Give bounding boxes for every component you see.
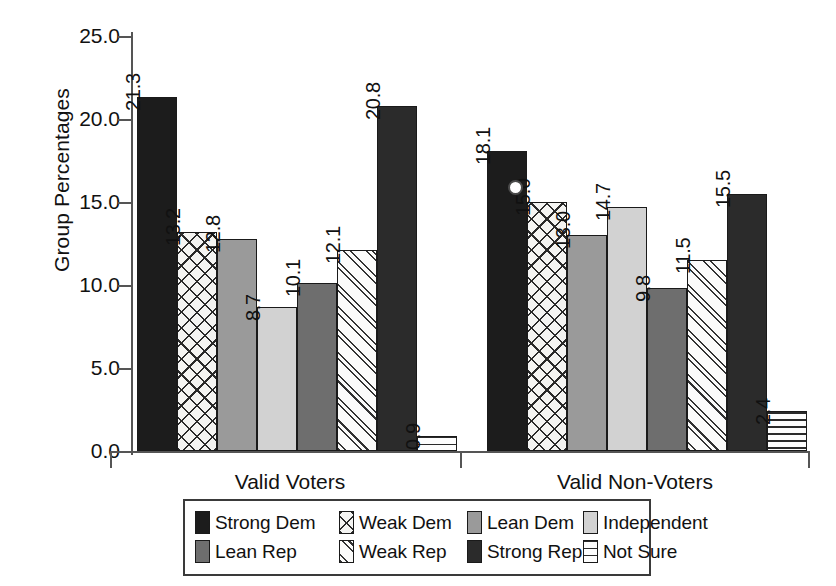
x-axis-left-cap xyxy=(110,451,112,468)
bar-valid-voters-lean-rep[interactable] xyxy=(297,283,337,451)
x-axis-group-separator xyxy=(460,451,462,468)
legend-item-weak-rep[interactable]: Weak Rep xyxy=(339,540,467,563)
y-tick-label-25: 25.0 xyxy=(48,24,120,48)
bar-valid-non-voters-lean-dem[interactable] xyxy=(567,235,607,451)
bar-value-label: 13.0 xyxy=(552,211,575,249)
bar-value-label: 12.1 xyxy=(322,226,345,264)
legend-swatch-weak-rep-icon xyxy=(339,540,354,563)
plot-area: 21.3 13.2 12.8 8.7 10.1 12.1 20.8 0.9 18… xyxy=(131,36,790,451)
legend-swatch-independent-icon xyxy=(583,511,598,534)
bar-value-label: 14.7 xyxy=(592,183,615,221)
bar-valid-voters-independent[interactable] xyxy=(257,307,297,451)
x-axis-right-cap xyxy=(808,451,810,468)
legend-swatch-lean-rep-icon xyxy=(195,540,210,563)
bar-value-label: 12.8 xyxy=(202,215,225,253)
bar-value-label: 15.5 xyxy=(712,170,735,208)
bar-valid-voters-strong-dem[interactable] xyxy=(137,97,177,451)
y-tick-label-10: 10.0 xyxy=(48,273,120,297)
legend-swatch-strong-dem-icon xyxy=(195,511,210,534)
legend-label-weak-dem: Weak Dem xyxy=(359,512,452,534)
y-tick-mark-10 xyxy=(118,285,132,287)
bar-valid-voters-strong-rep[interactable] xyxy=(377,106,417,451)
legend-swatch-lean-dem-icon xyxy=(467,511,482,534)
y-tick-mark-15 xyxy=(118,202,132,204)
x-category-label-valid-non-voters: Valid Non-Voters xyxy=(462,470,808,494)
legend-item-lean-dem[interactable]: Lean Dem xyxy=(467,511,583,534)
scan-artifact-dot xyxy=(508,180,523,195)
legend-label-lean-rep: Lean Rep xyxy=(215,541,297,563)
legend-label-independent: Independent xyxy=(603,512,708,534)
y-tick-mark-20 xyxy=(118,119,132,121)
bar-valid-voters-weak-rep[interactable] xyxy=(337,250,377,451)
legend-label-strong-rep: Strong Rep xyxy=(487,541,582,563)
legend-label-not-sure: Not Sure xyxy=(603,541,677,563)
bar-valid-voters-lean-dem[interactable] xyxy=(217,239,257,452)
legend-item-strong-dem[interactable]: Strong Dem xyxy=(195,511,339,534)
legend-label-weak-rep: Weak Rep xyxy=(359,541,447,563)
y-axis-tick-labels: 25.0 20.0 15.0 10.0 5.0 0.0 xyxy=(48,0,120,586)
bar-value-label: 13.2 xyxy=(162,208,185,246)
legend-item-strong-rep[interactable]: Strong Rep xyxy=(467,540,583,563)
legend-swatch-weak-dem-icon xyxy=(339,511,354,534)
bar-value-label: 21.3 xyxy=(122,74,145,112)
bar-valid-non-voters-lean-rep[interactable] xyxy=(647,288,687,451)
legend-label-strong-dem: Strong Dem xyxy=(215,512,315,534)
bar-valid-voters-weak-dem[interactable] xyxy=(177,232,217,451)
legend-row-2: Lean Rep Weak Rep Strong Rep Not Sure xyxy=(195,537,641,566)
bar-value-label: 11.5 xyxy=(672,238,695,274)
bar-value-label: 9.8 xyxy=(632,275,655,302)
legend-item-lean-rep[interactable]: Lean Rep xyxy=(195,540,339,563)
legend-row-1: Strong Dem Weak Dem Lean Dem Independent xyxy=(195,508,641,537)
bar-value-label: 18.1 xyxy=(472,127,495,165)
x-category-label-valid-voters: Valid Voters xyxy=(120,470,460,494)
legend-item-weak-dem[interactable]: Weak Dem xyxy=(339,511,467,534)
legend-swatch-not-sure-icon xyxy=(583,540,598,563)
y-tick-label-20: 20.0 xyxy=(48,107,120,131)
legend-swatch-strong-rep-icon xyxy=(467,540,482,563)
bar-value-label: 20.8 xyxy=(362,82,385,120)
bar-value-label: 8.7 xyxy=(242,294,265,321)
bar-value-label: 10.1 xyxy=(282,260,305,298)
chart-legend: Strong Dem Weak Dem Lean Dem Independent… xyxy=(183,499,651,576)
bar-valid-non-voters-independent[interactable] xyxy=(607,207,647,451)
bar-chart-figure: Group Percentages 25.0 20.0 15.0 10.0 5.… xyxy=(0,0,836,586)
y-tick-mark-25 xyxy=(118,36,132,38)
bar-value-label: 2.4 xyxy=(752,398,775,425)
legend-label-lean-dem: Lean Dem xyxy=(487,512,574,534)
legend-item-not-sure[interactable]: Not Sure xyxy=(583,540,677,563)
legend-item-independent[interactable]: Independent xyxy=(583,511,708,534)
y-tick-label-5: 5.0 xyxy=(48,356,120,380)
y-tick-mark-5 xyxy=(118,368,132,370)
bar-value-label: 0.9 xyxy=(402,423,425,450)
bar-valid-non-voters-weak-rep[interactable] xyxy=(687,260,727,451)
y-tick-label-15: 15.0 xyxy=(48,190,120,214)
